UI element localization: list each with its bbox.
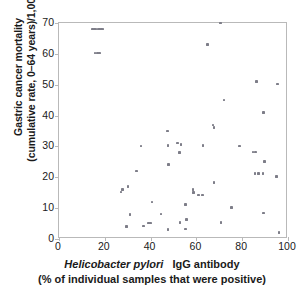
x-tick-label: 100	[272, 241, 302, 252]
x-axis-title: Helicobacter pyloriIgG antibody	[0, 257, 304, 271]
data-point	[254, 151, 257, 154]
data-point	[238, 145, 241, 148]
data-point	[276, 83, 279, 86]
scatter-chart-figure: Gastric cancer mortality (cumulative rat…	[0, 0, 304, 299]
data-point	[149, 222, 152, 225]
y-tick-label: 70	[32, 17, 54, 27]
x-tick-label: 20	[89, 241, 119, 252]
x-tick-label: 80	[226, 241, 256, 252]
data-point	[180, 143, 183, 146]
data-point	[206, 43, 209, 46]
y-tick-label: 30	[32, 140, 54, 150]
data-point	[120, 191, 123, 194]
data-point	[142, 225, 145, 228]
data-point	[262, 212, 265, 215]
y-tick-mark	[55, 116, 59, 117]
x-axis-subtitle: (% of individual samples that were posit…	[0, 272, 304, 286]
x-axis-tick-labels: 020406080100	[0, 241, 304, 255]
x-tick-label: 0	[43, 241, 73, 252]
data-point	[166, 130, 169, 133]
y-tick-mark	[55, 146, 59, 147]
x-axis-title-rest: IgG antibody	[172, 258, 239, 270]
data-point	[230, 206, 233, 209]
y-tick-mark	[55, 23, 59, 24]
data-point	[202, 144, 205, 147]
x-axis-title-species: Helicobacter pylori	[64, 258, 163, 270]
y-axis-title-line1: Gastric cancer mortality	[12, 18, 25, 136]
data-point	[263, 160, 266, 163]
y-tick-mark	[55, 177, 59, 178]
x-tick-label: 40	[135, 241, 165, 252]
data-point	[127, 185, 130, 188]
data-point	[213, 181, 216, 184]
data-point	[160, 213, 163, 216]
data-point	[197, 194, 200, 197]
data-point	[262, 172, 265, 175]
data-point	[278, 231, 281, 234]
y-tick-label: 40	[32, 110, 54, 120]
data-point	[151, 201, 154, 204]
data-point	[140, 145, 143, 148]
data-point	[257, 172, 260, 175]
y-tick-mark	[55, 54, 59, 55]
data-point	[102, 28, 105, 31]
data-point	[135, 170, 138, 173]
data-point	[129, 213, 132, 216]
data-point	[176, 142, 179, 145]
y-tick-label: 50	[32, 79, 54, 89]
data-point	[178, 151, 181, 154]
data-point	[255, 80, 258, 83]
data-point	[121, 188, 124, 191]
data-point	[184, 203, 187, 206]
data-point	[185, 218, 188, 221]
y-tick-label: 10	[32, 202, 54, 212]
data-point	[213, 126, 216, 129]
y-tick-label: 60	[32, 48, 54, 58]
data-point	[125, 225, 128, 228]
y-tick-label: 20	[32, 171, 54, 181]
data-point	[167, 228, 170, 231]
data-point	[192, 191, 195, 194]
data-point	[167, 144, 170, 147]
data-point	[201, 194, 204, 197]
data-point	[184, 228, 187, 231]
data-point	[262, 111, 265, 114]
data-point	[192, 188, 195, 191]
data-point-layer	[59, 23, 286, 237]
data-point	[219, 22, 222, 25]
data-point	[179, 221, 182, 224]
data-point	[254, 172, 257, 175]
data-point	[167, 163, 170, 166]
plot-area	[58, 22, 287, 238]
y-tick-mark	[55, 208, 59, 209]
data-point	[275, 175, 278, 178]
data-point	[223, 99, 226, 102]
y-tick-mark	[55, 85, 59, 86]
data-point	[220, 221, 223, 224]
x-tick-label: 60	[180, 241, 210, 252]
data-point	[98, 52, 101, 55]
